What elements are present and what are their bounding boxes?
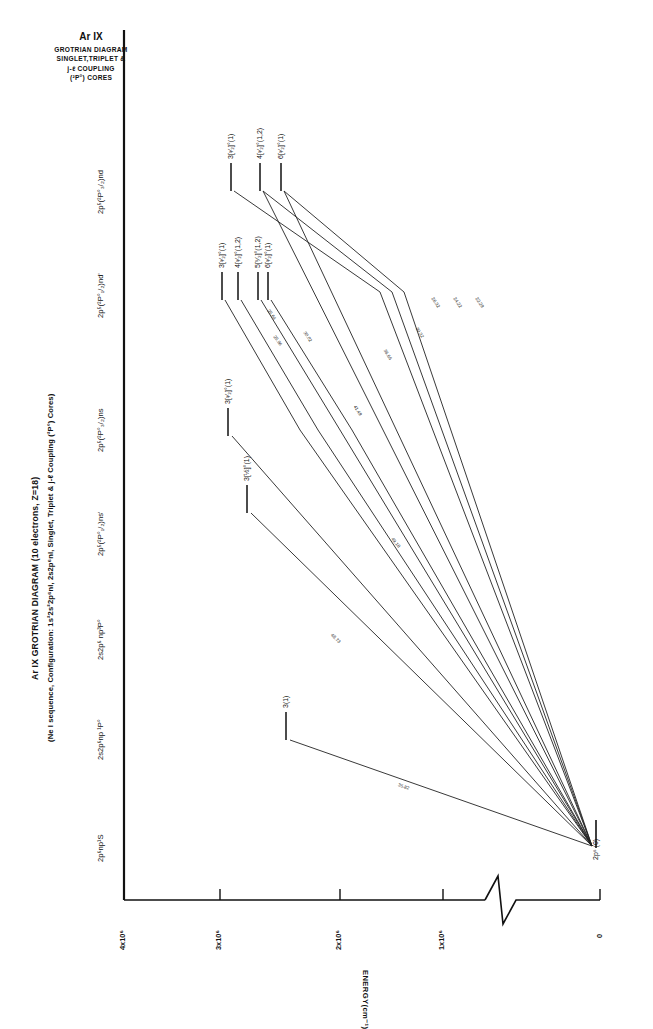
tick-label-3e6: 3x10⁶ [214, 930, 223, 950]
transition-line-48-73 [251, 513, 592, 846]
transition-lines [225, 191, 592, 846]
column-label-c1: 2p⁶np¹S [96, 834, 105, 862]
tick-label-4e6: 4x10⁶ [118, 930, 127, 950]
level-label-c7-3: 3[³⁄₂]°(1) [227, 134, 234, 159]
transition-line-49-18 [232, 436, 592, 846]
tick-label-2e6: 2x10⁶ [334, 930, 343, 950]
level-label-c6-5: 5[⁵⁄₂]°(1,2) [254, 236, 261, 268]
grotrian-diagram-figure: Ar IX GROTRIAN DIAGRAM (10 electrons, Z=… [0, 0, 653, 1029]
level-label-c7-4: 4[³⁄₂]°(1,2) [256, 128, 263, 159]
ground-level-label: 2p⁶ (0) [592, 839, 599, 860]
transition-line-24-22 [284, 191, 592, 846]
energy-axis-title: ENERGY(cm⁻¹) [361, 970, 370, 1029]
transition-line-30-02 [271, 300, 592, 846]
level-label-c6-4: 4[³⁄₂]°(1,2) [234, 237, 241, 268]
level-label-c5-3: 3[³⁄₂]°(1) [224, 379, 231, 404]
level-label-c2-3: 3(1) [282, 696, 289, 708]
column-label-c4: 2p⁵(²P°₁/₂)ns' [96, 512, 105, 556]
column-label-c3: 2s2p⁶ np³P° [96, 619, 105, 660]
level-label-c6-3: 3[³⁄₂]°(1) [218, 243, 225, 268]
tick-label-1e6: 1x10⁶ [437, 930, 446, 950]
transition-line-25-96 [234, 191, 592, 846]
column-label-c7: 2p⁵(²P°₃/₂)nd [96, 170, 105, 214]
axis-break-zigzag [485, 876, 540, 924]
column-label-c5: 2p⁵(²P°₃/₂)ns [96, 409, 105, 452]
tick-label-0: 0 [595, 934, 604, 938]
level-label-c6-6: 6[³⁄₂]°(1) [264, 243, 271, 268]
transition-line-36-66 [241, 300, 592, 846]
column-label-c2: 2s2p⁶np ¹P° [96, 719, 105, 760]
transition-line-41-49 [225, 300, 592, 846]
column-label-c6: 2p⁵(²P°₁/₂)nd' [96, 273, 105, 318]
transition-line-30-32 [261, 300, 592, 846]
level-label-c7-6: 6[³⁄₂]°(1) [277, 134, 284, 159]
level-label-c4-3: 3[½]°(1) [243, 456, 250, 481]
